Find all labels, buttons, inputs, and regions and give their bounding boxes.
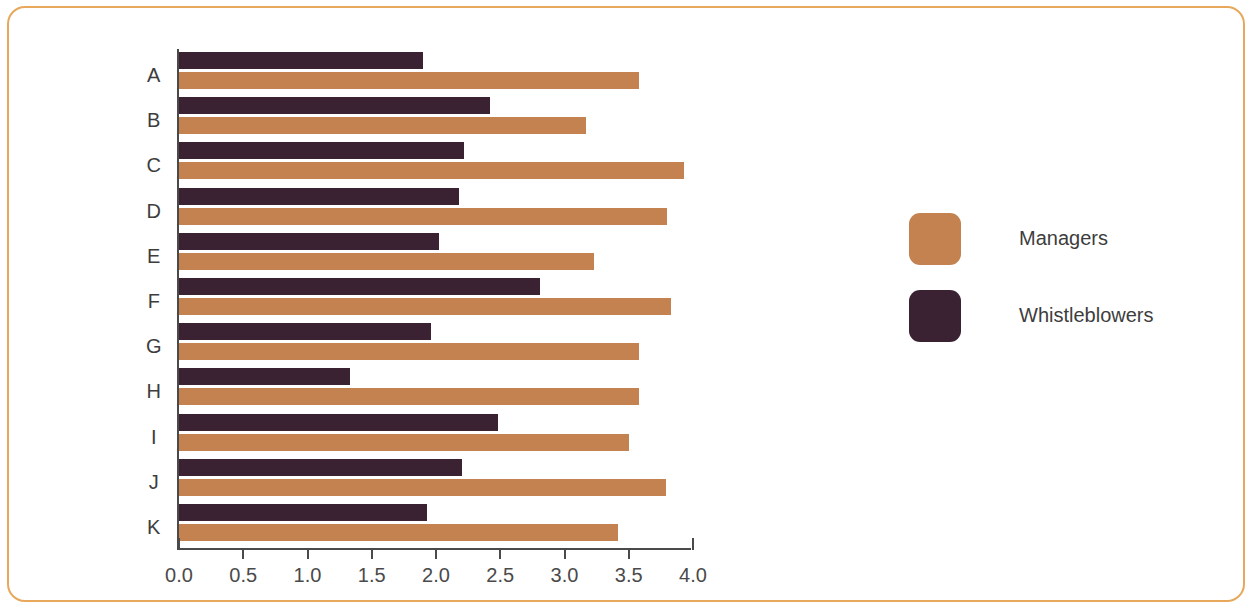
category-label-g: G xyxy=(137,335,171,358)
bar-whistleblowers-k xyxy=(179,504,427,521)
bar-whistleblowers-i xyxy=(179,414,498,431)
bar-group-f xyxy=(179,278,699,315)
chart-legend: ManagersWhistleblowers xyxy=(909,213,1209,367)
x-tick-2.5 xyxy=(499,550,501,559)
category-label-e: E xyxy=(137,245,171,268)
bar-managers-h xyxy=(179,388,639,405)
x-tick-2.0 xyxy=(435,550,437,559)
bar-whistleblowers-d xyxy=(179,188,459,205)
bar-managers-i xyxy=(179,434,629,451)
bar-whistleblowers-f xyxy=(179,278,540,295)
bar-whistleblowers-j xyxy=(179,459,462,476)
x-ticklabel-1.5: 1.5 xyxy=(342,564,402,587)
x-ticklabel-0.5: 0.5 xyxy=(213,564,273,587)
bar-managers-f xyxy=(179,298,671,315)
bar-managers-b xyxy=(179,117,586,134)
bar-group-e xyxy=(179,233,699,270)
bar-managers-k xyxy=(179,524,618,541)
bar-group-h xyxy=(179,368,699,405)
x-ticklabel-2.5: 2.5 xyxy=(470,564,530,587)
bar-whistleblowers-a xyxy=(179,52,423,69)
x-tick-3.5 xyxy=(628,550,630,559)
bar-group-k xyxy=(179,504,699,541)
x-tick-1.0 xyxy=(307,550,309,559)
bar-whistleblowers-b xyxy=(179,97,490,114)
x-ticklabel-2.0: 2.0 xyxy=(406,564,466,587)
category-label-i: I xyxy=(137,426,171,449)
bar-managers-d xyxy=(179,208,667,225)
category-label-h: H xyxy=(137,380,171,403)
bar-managers-j xyxy=(179,479,666,496)
bar-group-a xyxy=(179,52,699,89)
legend-swatch-managers xyxy=(909,213,961,265)
bar-managers-e xyxy=(179,253,594,270)
bar-group-c xyxy=(179,142,699,179)
x-tick-3.0 xyxy=(564,550,566,559)
bar-group-b xyxy=(179,97,699,134)
category-label-c: C xyxy=(137,154,171,177)
x-tick-4.0 xyxy=(692,538,694,550)
x-tick-0.0 xyxy=(178,538,180,550)
bar-group-g xyxy=(179,323,699,360)
bar-group-i xyxy=(179,414,699,451)
x-ticklabel-3.0: 3.0 xyxy=(535,564,595,587)
bar-whistleblowers-g xyxy=(179,323,431,340)
category-label-k: K xyxy=(137,516,171,539)
x-ticklabel-4.0: 4.0 xyxy=(663,564,723,587)
x-ticklabel-3.5: 3.5 xyxy=(599,564,659,587)
bar-chart-plot-area: ABCDEFGHIJK 0.00.51.01.52.02.53.03.54.0 xyxy=(9,8,769,604)
category-label-b: B xyxy=(137,109,171,132)
x-ticklabel-0.0: 0.0 xyxy=(149,564,209,587)
legend-entry-managers: Managers xyxy=(909,213,1209,265)
bar-whistleblowers-e xyxy=(179,233,439,250)
legend-swatch-whistleblowers xyxy=(909,290,961,342)
category-label-f: F xyxy=(137,290,171,313)
legend-label-managers: Managers xyxy=(1019,227,1108,250)
x-tick-1.5 xyxy=(371,550,373,559)
x-ticklabel-1.0: 1.0 xyxy=(278,564,338,587)
category-label-a: A xyxy=(137,64,171,87)
category-label-d: D xyxy=(137,200,171,223)
legend-label-whistleblowers: Whistleblowers xyxy=(1019,304,1153,327)
x-axis-spine xyxy=(177,548,691,550)
category-label-j: J xyxy=(137,471,171,494)
bar-managers-a xyxy=(179,72,639,89)
x-tick-0.5 xyxy=(242,550,244,559)
figure-frame: ABCDEFGHIJK 0.00.51.01.52.02.53.03.54.0 … xyxy=(7,6,1245,602)
bar-group-j xyxy=(179,459,699,496)
bar-managers-g xyxy=(179,343,639,360)
legend-entry-whistleblowers: Whistleblowers xyxy=(909,290,1209,342)
bar-whistleblowers-h xyxy=(179,368,350,385)
bar-managers-c xyxy=(179,162,684,179)
bar-group-d xyxy=(179,188,699,225)
bar-whistleblowers-c xyxy=(179,142,464,159)
